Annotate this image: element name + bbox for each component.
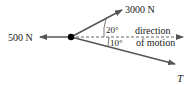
label-500n: 500 N	[8, 32, 33, 43]
label-3000n: 3000 N	[125, 4, 155, 15]
label-of-motion: of motion	[136, 37, 175, 48]
label-angle-10: 10°	[110, 38, 123, 48]
label-t: T	[177, 72, 184, 84]
label-angle-20: 20°	[106, 25, 119, 35]
object-dot	[68, 34, 74, 40]
angle-arc-10	[108, 37, 109, 46]
force-diagram: 3000 N 500 N T 20° 10° direction of moti…	[0, 0, 195, 85]
label-direction: direction	[135, 25, 171, 36]
